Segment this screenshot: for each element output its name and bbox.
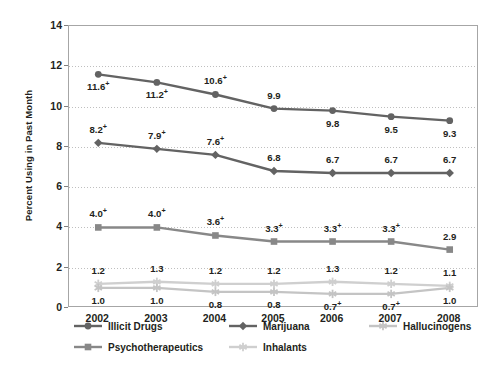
circle-marker — [271, 105, 278, 112]
data-label: 8.2+ — [90, 125, 108, 135]
data-label: 3.3+ — [265, 224, 283, 234]
y-axis-tick-label: 0 — [36, 302, 62, 313]
diamond-marker — [446, 169, 454, 177]
circle-marker — [85, 323, 92, 330]
data-label: 1.3 — [326, 264, 339, 274]
data-label: 1.3 — [150, 264, 163, 274]
data-label: 2.9 — [443, 232, 456, 242]
square-marker — [446, 246, 453, 253]
data-label: 4.0+ — [90, 209, 108, 219]
legend-item-marijuana[interactable]: Marijuana — [228, 320, 310, 332]
diamond-marker — [211, 151, 219, 159]
circle-marker — [446, 117, 453, 124]
diamond-marker — [270, 167, 278, 175]
data-label: 6.7 — [326, 155, 339, 165]
square-marker — [154, 224, 161, 231]
square-marker — [85, 344, 92, 351]
data-label: 10.6+ — [204, 76, 227, 86]
data-label: 0.8 — [209, 300, 222, 310]
data-label: 0.8 — [267, 300, 280, 310]
diamond-marker — [153, 145, 161, 153]
data-label: 9.8 — [326, 119, 339, 129]
legend-item-hallucinogens[interactable]: Hallucinogens — [368, 320, 471, 332]
data-label: 7.6+ — [207, 137, 225, 147]
data-label: 1.2 — [92, 266, 105, 276]
chart-legend: Illicit DrugsMarijuanaHallucinogensPsych… — [68, 318, 478, 366]
circle-marker — [388, 113, 395, 120]
data-label: 3.3+ — [324, 224, 342, 234]
data-label: 1.2 — [209, 266, 222, 276]
data-label: 11.2+ — [146, 90, 168, 100]
data-label: 1.1 — [443, 268, 456, 278]
data-label: 9.9 — [267, 91, 280, 101]
y-axis-tick-label: 6 — [36, 181, 62, 192]
square-marker — [388, 238, 395, 245]
y-axis-tick-label: 4 — [36, 221, 62, 232]
diamond-marker — [239, 322, 247, 330]
data-label: 0.7+ — [324, 302, 342, 312]
data-label: 1.0 — [92, 296, 105, 306]
diamond-legend-swatch — [228, 320, 258, 332]
legend-label: Marijuana — [263, 321, 310, 332]
plot-area: 11.6+11.2+10.6+9.99.89.59.38.2+7.9+7.6+6… — [68, 25, 478, 307]
diamond-marker — [328, 169, 336, 177]
diamond-marker — [387, 169, 395, 177]
circle-legend-swatch — [73, 320, 103, 332]
legend-label: Illicit Drugs — [108, 321, 162, 332]
square-marker — [95, 224, 102, 231]
y-axis-title: Percent Using in Past Month — [23, 56, 34, 256]
square-marker — [329, 238, 336, 245]
circle-marker — [212, 91, 219, 98]
data-label: 6.7 — [443, 155, 456, 165]
legend-label: Hallucinogens — [403, 321, 471, 332]
data-label: 3.3+ — [382, 224, 400, 234]
y-axis-tick-label: 2 — [36, 262, 62, 273]
y-axis-tick-mark — [64, 307, 68, 308]
y-axis-tick-label: 10 — [36, 101, 62, 112]
circle-marker — [329, 107, 336, 114]
asterisk-legend-swatch — [368, 320, 398, 332]
legend-label: Psychotherapeutics — [108, 342, 203, 353]
circle-marker — [153, 79, 160, 86]
square-marker — [212, 232, 219, 239]
data-label: 1.0 — [443, 296, 456, 306]
data-label: 1.2 — [384, 266, 397, 276]
y-axis-tick-label: 14 — [36, 20, 62, 31]
data-label: 7.9+ — [148, 131, 166, 141]
data-label: 1.2 — [267, 266, 280, 276]
data-label: 0.7+ — [382, 302, 400, 312]
legend-label: Inhalants — [263, 342, 307, 353]
legend-item-inhalants[interactable]: Inhalants — [228, 341, 307, 353]
y-axis-tick-label: 8 — [36, 141, 62, 152]
circle-marker — [95, 71, 102, 78]
data-label: 6.8 — [267, 153, 280, 163]
data-label: 11.6+ — [87, 82, 109, 92]
legend-item-illicit-drugs[interactable]: Illicit Drugs — [73, 320, 162, 332]
data-label: 6.7 — [384, 155, 397, 165]
data-label: 9.3 — [443, 129, 456, 139]
data-label: 1.0 — [150, 296, 163, 306]
square-marker — [271, 238, 278, 245]
data-label: 9.5 — [384, 125, 397, 135]
asterisk-legend-swatch — [228, 341, 258, 353]
square-legend-swatch — [73, 341, 103, 353]
legend-item-psychotherapeutics[interactable]: Psychotherapeutics — [73, 341, 203, 353]
diamond-marker — [94, 139, 102, 147]
data-label: 3.6+ — [207, 217, 225, 227]
data-label: 4.0+ — [148, 209, 166, 219]
chart-container: Percent Using in Past Month 02468101214 … — [0, 0, 497, 371]
y-axis-tick-label: 12 — [36, 60, 62, 71]
